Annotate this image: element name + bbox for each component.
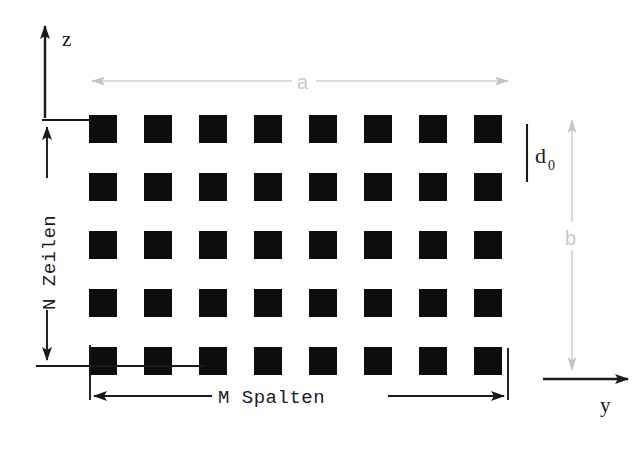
raster-cell — [364, 173, 392, 201]
raster-cell — [254, 347, 282, 375]
dimension-d0-label: d — [535, 143, 546, 168]
raster-cell — [144, 115, 172, 143]
raster-cell — [199, 115, 227, 143]
dimension-a-label: a — [297, 71, 309, 93]
raster-cell — [89, 231, 117, 259]
raster-cell — [144, 289, 172, 317]
raster-cell — [199, 289, 227, 317]
columns-label: M Spalten — [218, 387, 325, 409]
raster-cell — [89, 347, 117, 375]
raster-cell — [199, 347, 227, 375]
raster-cell — [144, 231, 172, 259]
raster-cell — [364, 289, 392, 317]
raster-cell — [474, 231, 502, 259]
raster-cell — [144, 173, 172, 201]
raster-cell — [254, 289, 282, 317]
raster-cell — [254, 115, 282, 143]
raster-cell — [419, 173, 447, 201]
raster-cell — [309, 173, 337, 201]
raster-cell — [364, 347, 392, 375]
raster-cell — [199, 173, 227, 201]
z-axis-label: z — [62, 27, 71, 51]
raster-cell — [144, 347, 172, 375]
raster-diagram-figure: z y a b d 0 — [0, 0, 641, 449]
diagram-canvas: z y a b d 0 — [0, 0, 641, 449]
y-axis-label: y — [600, 393, 611, 417]
raster-cell — [419, 347, 447, 375]
raster-cell — [89, 173, 117, 201]
raster-cell — [419, 115, 447, 143]
raster-cell — [474, 289, 502, 317]
raster-cell — [89, 115, 117, 143]
dimension-b-label: b — [565, 227, 576, 249]
figure-background — [0, 0, 641, 449]
raster-cell — [309, 231, 337, 259]
raster-cell — [309, 115, 337, 143]
raster-cell — [89, 289, 117, 317]
raster-cell — [254, 173, 282, 201]
raster-cell — [419, 289, 447, 317]
rows-label: N Zeilen — [39, 215, 61, 310]
raster-cell — [254, 231, 282, 259]
raster-cell — [474, 173, 502, 201]
raster-cell — [364, 115, 392, 143]
raster-cell — [474, 115, 502, 143]
raster-cell — [474, 347, 502, 375]
raster-cell — [364, 231, 392, 259]
raster-cell — [309, 347, 337, 375]
raster-cell — [419, 231, 447, 259]
dimension-d0-subscript: 0 — [548, 158, 555, 173]
raster-cell — [309, 289, 337, 317]
raster-cell — [199, 231, 227, 259]
